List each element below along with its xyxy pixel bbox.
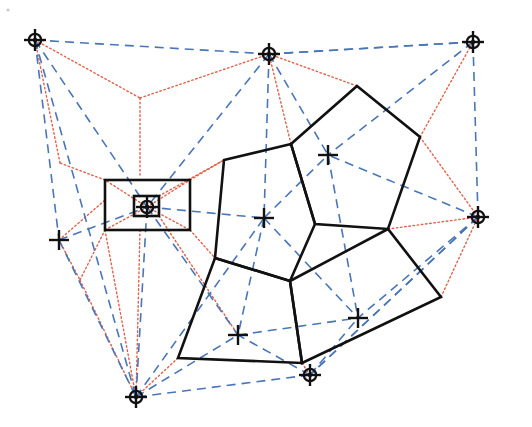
- marker-center-dot: [33, 38, 37, 42]
- voronoi-delaunay-figure: [0, 0, 532, 427]
- marker-center-dot: [471, 40, 475, 44]
- scan-speck: [6, 8, 9, 11]
- marker-center-dot: [476, 215, 480, 219]
- figure-canvas: [0, 0, 532, 427]
- marker-center-dot: [145, 205, 149, 209]
- marker-center-dot: [308, 373, 312, 377]
- marker-center-dot: [134, 395, 138, 399]
- marker-center-dot: [267, 52, 271, 56]
